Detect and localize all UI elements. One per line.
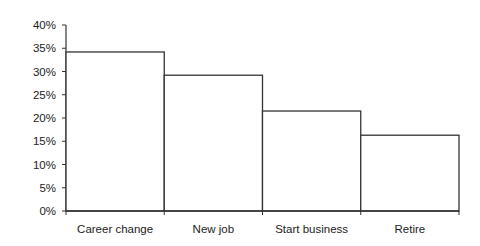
bar-retire: [361, 135, 459, 211]
bar-start-business: [263, 111, 361, 211]
y-tick-label: 25%: [33, 89, 56, 101]
y-axis: 0%5%10%15%20%25%30%35%40%: [33, 19, 66, 217]
x-tick-label: Start business: [275, 223, 348, 235]
bar-new-job: [164, 75, 262, 211]
y-tick-label: 15%: [33, 135, 56, 147]
x-tick-label: Retire: [395, 223, 426, 235]
y-tick-label: 5%: [39, 182, 56, 194]
y-tick-label: 10%: [33, 159, 56, 171]
bar-career-change: [66, 52, 164, 211]
y-tick-label: 35%: [33, 42, 56, 54]
x-axis: Career changeNew jobStart businessRetire: [66, 211, 459, 235]
y-tick-label: 0%: [39, 205, 56, 217]
x-tick-label: Career change: [77, 223, 153, 235]
y-tick-label: 40%: [33, 19, 56, 31]
bar-chart: 0%5%10%15%20%25%30%35%40% Career changeN…: [0, 0, 480, 246]
y-tick-label: 20%: [33, 112, 56, 124]
x-tick-label: New job: [193, 223, 235, 235]
y-tick-label: 30%: [33, 66, 56, 78]
bars: [66, 52, 459, 211]
